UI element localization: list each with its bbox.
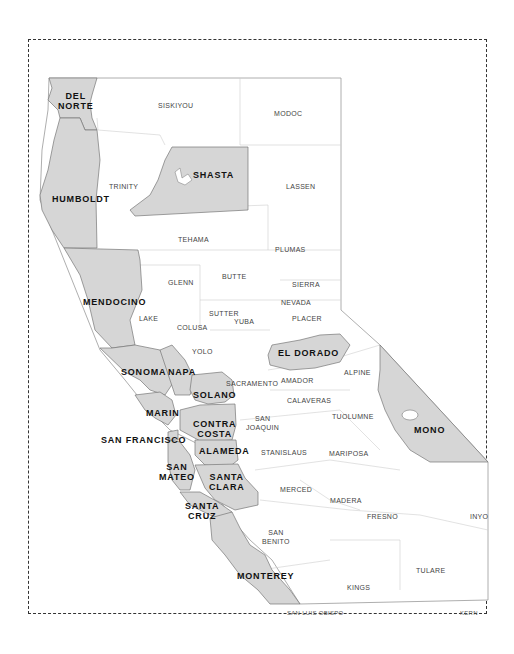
- label-placer: PLACER: [292, 314, 322, 323]
- label-madera: MADERA: [330, 496, 362, 505]
- label-fresno: FRESNO: [367, 512, 398, 521]
- label-butte: BUTTE: [222, 272, 246, 281]
- label-tehama: TEHAMA: [178, 235, 209, 244]
- label-text: SAN: [255, 415, 270, 422]
- label-yuba: YUBA: [234, 317, 254, 326]
- label-text: SAN: [166, 462, 187, 472]
- label-san-mateo: SANMATEO: [159, 462, 195, 482]
- label-text: CLARA: [209, 482, 245, 492]
- label-san-joaquin: SANJOAQUIN: [246, 414, 279, 432]
- label-text: COSTA: [197, 429, 232, 439]
- label-text: SANTA: [210, 472, 244, 482]
- label-sierra: SIERRA: [292, 280, 320, 289]
- label-kings: KINGS: [347, 583, 370, 592]
- label-text: BENITO: [262, 538, 290, 545]
- label-text: SAN: [268, 529, 283, 536]
- label-alpine: ALPINE: [344, 368, 371, 377]
- label-lassen: LASSEN: [286, 182, 315, 191]
- label-merced: MERCED: [280, 485, 312, 494]
- label-santa-cruz: SANTACRUZ: [185, 501, 219, 521]
- label-amador: AMADOR: [281, 376, 314, 385]
- label-modoc: MODOC: [274, 109, 302, 118]
- label-trinity: TRINITY: [109, 182, 138, 191]
- label-tuolumne: TUOLUMNE: [332, 412, 374, 421]
- label-text: JOAQUIN: [246, 424, 279, 431]
- label-shasta: SHASTA: [193, 170, 234, 180]
- label-nevada: NEVADA: [281, 298, 311, 307]
- label-glenn: GLENN: [168, 278, 194, 287]
- label-kern: KERN: [460, 609, 478, 618]
- label-text: SANTA: [185, 501, 219, 511]
- label-mariposa: MARIPOSA: [329, 449, 368, 458]
- label-siskiyou: SISKIYOU: [158, 101, 193, 110]
- lake-mono: [402, 410, 418, 420]
- label-mendocino: MENDOCINO: [83, 297, 146, 307]
- label-el-dorado: EL DORADO: [278, 348, 339, 358]
- label-yolo: YOLO: [192, 347, 213, 356]
- label-colusa: COLUSA: [177, 323, 208, 332]
- label-sacramento: SACRAMENTO: [226, 379, 278, 388]
- label-text: CONTRA: [193, 419, 236, 429]
- label-lake: LAKE: [139, 314, 158, 323]
- label-sonoma: SONOMA: [121, 367, 166, 377]
- label-text: CRUZ: [188, 511, 216, 521]
- label-plumas: PLUMAS: [275, 245, 306, 254]
- label-napa: NAPA: [168, 367, 196, 377]
- label-calaveras: CALAVERAS: [287, 396, 331, 405]
- label-san-francisco: SAN FRANCISCO: [101, 435, 186, 445]
- label-humboldt: HUMBOLDT: [52, 194, 110, 204]
- label-san-luis-obispo: SAN LUIS OBISPO: [287, 609, 344, 618]
- label-marin: MARIN: [146, 408, 180, 418]
- label-text: MATEO: [159, 472, 195, 482]
- label-stanislaus: STANISLAUS: [261, 448, 307, 457]
- label-santa-clara: SANTACLARA: [209, 472, 245, 492]
- label-solano: SOLANO: [193, 390, 236, 400]
- label-inyo: INYO: [470, 512, 488, 521]
- label-mono: MONO: [414, 425, 445, 435]
- label-text: NORTE: [58, 101, 94, 111]
- label-san-benito: SANBENITO: [262, 528, 290, 546]
- label-text: DEL: [66, 91, 86, 101]
- label-tulare: TULARE: [416, 566, 445, 575]
- label-alameda: ALAMEDA: [199, 446, 250, 456]
- label-monterey: MONTEREY: [237, 571, 294, 581]
- label-contra-costa: CONTRACOSTA: [193, 419, 236, 439]
- label-del-norte: DELNORTE: [58, 91, 94, 111]
